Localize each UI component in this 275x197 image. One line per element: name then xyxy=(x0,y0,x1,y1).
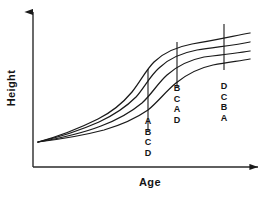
x-axis-label: Age xyxy=(118,176,182,188)
marker-label-2-line-1: B xyxy=(170,83,184,94)
marker-label-1-line-2: B xyxy=(141,127,155,138)
marker-label-3: D C B A xyxy=(217,81,231,123)
marker-label-1-line-1: A xyxy=(141,116,155,127)
marker-label-1-line-3: C xyxy=(141,137,155,148)
marker-label-1: A B C D xyxy=(141,116,155,158)
marker-label-3-line-3: B xyxy=(217,102,231,113)
marker-label-2-line-3: A xyxy=(170,104,184,115)
marker-label-3-line-1: D xyxy=(217,81,231,92)
marker-label-2: B C A D xyxy=(170,83,184,125)
y-axis-label-text: Height xyxy=(5,70,17,107)
marker-label-3-line-2: C xyxy=(217,92,231,103)
marker-label-3-line-4: A xyxy=(217,113,231,124)
marker-label-2-line-2: C xyxy=(170,94,184,105)
marker-label-1-line-4: D xyxy=(141,148,155,159)
marker-label-2-line-4: D xyxy=(170,115,184,126)
growth-curve-figure: Height Age A B C D B C A D D C B A xyxy=(0,0,275,197)
y-axis-label: Height xyxy=(0,60,22,116)
chart-canvas xyxy=(0,0,275,197)
